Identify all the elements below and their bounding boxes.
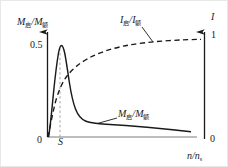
y-axis-right-tick-lower: 0	[210, 134, 215, 144]
y-axis-left-title-denominator-subscript: 额	[42, 21, 48, 28]
y-axis-left-tick-upper: 0.5	[30, 40, 43, 50]
torque-label-leader	[97, 118, 117, 124]
torque-curve-label-denominator-subscript: 额	[143, 113, 149, 120]
y-axis-right-title: I	[211, 12, 214, 22]
current-curve-label-denominator-subscript: 额	[135, 19, 141, 26]
torque-curve	[49, 46, 192, 138]
x-axis-title-denominator-subscript: s	[200, 155, 202, 162]
y-axis-right-tick-upper: 1	[211, 30, 216, 40]
x-axis-origin-label: 0	[37, 135, 42, 145]
torque-curve-label: M启/M额	[118, 109, 149, 120]
y-axis-left-title: M启/M额	[17, 17, 48, 28]
x-axis-marker-s: S	[58, 137, 63, 147]
figure-container: M启/M额 0.5 0 S n/ns I 1 0 I启/I额 M启/M额	[0, 0, 228, 167]
current-curve-label: I启/I额	[120, 15, 141, 26]
current-label-leader	[142, 27, 153, 42]
x-axis-title: n/ns	[187, 151, 202, 162]
